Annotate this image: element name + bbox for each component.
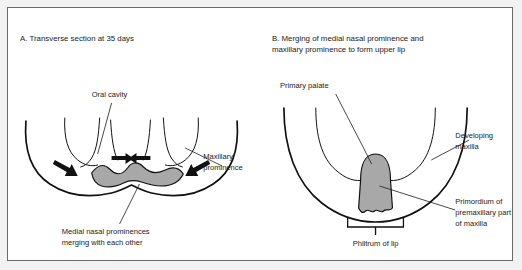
outline-septum-right (143, 120, 150, 160)
label-primordium-line2: premaxillary part (455, 208, 512, 217)
outline-palate-left (316, 108, 364, 181)
panel-b-merging-upper-lip: B. Merging of medial nasal prominence an… (260, 8, 512, 260)
shaded-medial-nasal-prominences (92, 163, 184, 187)
outline-nasal-right-inner (163, 118, 182, 167)
label-primordium-line3: of maxilla (455, 219, 488, 228)
panel-b-title-line1: B. Merging of medial nasal prominence an… (272, 34, 424, 43)
outline-palate-right (387, 108, 435, 181)
panel-a-transverse-section: A. Transverse section at 35 days Oral ca… (8, 8, 260, 260)
panel-a-title: A. Transverse section at 35 days (20, 34, 134, 43)
shaded-premaxillary-primordium (359, 154, 393, 212)
leader-primary-palate (336, 94, 364, 148)
label-developing-maxilla-line1: Developing (455, 131, 493, 140)
label-primordium-line1: Primordium of (455, 197, 503, 206)
outline-nasal-left-inner (81, 118, 100, 167)
arrow-merge-right (129, 153, 151, 164)
panel-b-title-line2: maxillary prominence to form upper lip (272, 45, 406, 54)
arrow-maxillary-left (53, 160, 78, 176)
label-oral-cavity: Oral cavity (92, 90, 128, 99)
outline-septum-left (111, 120, 118, 160)
outline-nasal-left-outer (65, 118, 98, 166)
label-medial-nasal-line2: merging with each other (62, 238, 143, 247)
label-philtrum: Philtrum of lip (353, 239, 399, 248)
label-maxillary-prominence-line2: prominence (203, 163, 243, 172)
label-maxillary-prominence-line1: Maxillary (203, 152, 233, 161)
label-primary-palate: Primary palate (280, 81, 329, 90)
label-medial-nasal-line1: Medial nasal prominences (62, 227, 150, 236)
leader-oral-cavity (98, 103, 112, 154)
panel-b-drawing: B. Merging of medial nasal prominence an… (260, 8, 512, 260)
panel-a-drawing: A. Transverse section at 35 days Oral ca… (8, 8, 260, 260)
figure-root: A. Transverse section at 35 days Oral ca… (0, 0, 522, 270)
label-developing-maxilla-line2: maxilla (455, 142, 479, 151)
figure-frame: A. Transverse section at 35 days Oral ca… (7, 7, 513, 261)
outline-nasal-right-outer (165, 118, 198, 166)
